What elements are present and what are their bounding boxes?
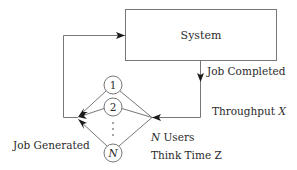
user-n-label: N (107, 147, 118, 159)
queueing-diagram: System 1 2 N (0, 0, 297, 170)
n-users-label: N Users (150, 131, 194, 143)
user-node-1: 1 (104, 76, 122, 94)
job-completed-label: Job Completed (206, 65, 286, 77)
user-1-label: 1 (110, 79, 117, 91)
users-in-edges (119, 91, 152, 146)
user-node-2: 2 (104, 98, 122, 116)
throughput-label: Throughput X (212, 105, 286, 117)
system-node: System (126, 10, 277, 61)
system-label: System (181, 29, 222, 42)
arrow-icon (78, 119, 87, 129)
job-generated-label: Job Generated (12, 139, 90, 151)
users-out-edges (78, 91, 107, 146)
user-2-label: 2 (110, 101, 117, 113)
completion-line (152, 61, 201, 118)
think-time-label: Think Time Z (151, 149, 222, 161)
system-to-users-edge (152, 61, 204, 121)
user-ellipsis (112, 122, 114, 136)
user-node-n: N (104, 144, 122, 162)
